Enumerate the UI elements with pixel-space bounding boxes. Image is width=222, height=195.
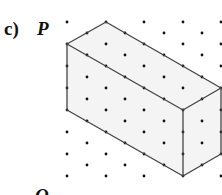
grid-dot <box>163 76 166 79</box>
grid-dot <box>86 98 89 101</box>
part-label: c) <box>4 19 19 38</box>
grid-dot <box>201 142 204 145</box>
grid-dot <box>105 87 108 90</box>
grid-dot <box>163 120 166 123</box>
grid-dot <box>66 21 69 24</box>
grid-dot <box>143 21 146 24</box>
grid-dot <box>143 175 146 178</box>
isometric-cuboid-figure: c) P Q <box>0 0 222 195</box>
grid-dot <box>143 65 146 68</box>
grid-dot <box>124 98 127 101</box>
grid-dot <box>105 153 108 156</box>
grid-dot <box>124 54 127 57</box>
grid-dot <box>66 153 69 156</box>
grid-dot <box>105 43 108 46</box>
grid-dot <box>201 32 204 35</box>
grid-dot <box>182 21 185 24</box>
grid-dot <box>220 21 222 24</box>
vertex-label-p: P <box>37 19 49 38</box>
vertex-label-q: Q <box>35 186 49 195</box>
grid-dot <box>86 76 89 79</box>
isometric-dot-grid <box>0 0 222 195</box>
grid-dot <box>143 131 146 134</box>
grid-dot <box>143 109 146 112</box>
grid-dot <box>105 175 108 178</box>
grid-dot <box>124 120 127 123</box>
grid-dot <box>86 164 89 167</box>
grid-dot <box>163 142 166 145</box>
grid-dot <box>66 131 69 134</box>
grid-dot <box>86 142 89 145</box>
grid-dot <box>124 164 127 167</box>
grid-dot <box>182 87 185 90</box>
grid-dot <box>201 120 204 123</box>
grid-dot <box>220 175 222 178</box>
grid-dot <box>182 43 185 46</box>
grid-dot <box>201 54 204 57</box>
grid-dot <box>220 65 222 68</box>
grid-dot <box>105 109 108 112</box>
grid-dot <box>220 43 222 46</box>
grid-dot <box>163 32 166 35</box>
grid-dot <box>66 175 69 178</box>
